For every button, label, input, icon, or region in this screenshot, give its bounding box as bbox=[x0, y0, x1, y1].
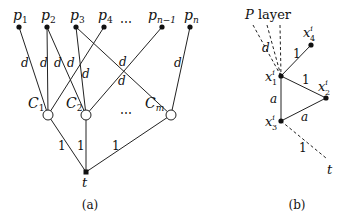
node-c2 bbox=[81, 110, 91, 120]
weight-d: d bbox=[54, 56, 62, 70]
weight-d: d bbox=[40, 56, 48, 70]
weight-d: d bbox=[82, 67, 90, 81]
panel-a-one-labels: 1 1 1 bbox=[58, 139, 120, 153]
panel-a-c-nodes: C1 C2 Cm ⋯ bbox=[28, 95, 176, 120]
label-cm: Cm bbox=[145, 95, 164, 113]
caption-a: (a) bbox=[82, 198, 99, 212]
weight-d: d bbox=[174, 56, 182, 70]
label-x1: xi1 bbox=[265, 68, 277, 87]
label-pn-1: pn−1 bbox=[148, 7, 176, 25]
panel-b-labels: P layer d xi4 xi1 xi2 xi3 1 1 a a 1 t bbox=[244, 7, 333, 177]
node-p4 bbox=[101, 24, 106, 29]
label-p-layer: P layer bbox=[244, 7, 292, 22]
figure-canvas: p1 p2 p3 p4 pn−1 pn ⋯ d d d d d d d d C1… bbox=[0, 0, 340, 221]
edge-cm-t bbox=[86, 115, 171, 172]
label-p2: p2 bbox=[41, 7, 56, 25]
label-p3: p3 bbox=[70, 7, 85, 25]
weight-d: d bbox=[67, 56, 75, 70]
label-c2: C2 bbox=[66, 95, 82, 113]
node-c1 bbox=[43, 110, 53, 120]
node-cm bbox=[166, 110, 176, 120]
dashed-edge-p-layer bbox=[280, 25, 281, 76]
weight-x3-x2: a bbox=[301, 110, 308, 124]
node-x4 bbox=[308, 42, 313, 47]
weight-1: 1 bbox=[58, 139, 66, 153]
weight-1: 1 bbox=[77, 139, 85, 153]
edge-pn-cm bbox=[171, 27, 190, 115]
label-x3: xi3 bbox=[265, 113, 277, 132]
node-p1 bbox=[16, 24, 21, 29]
node-t bbox=[84, 170, 89, 175]
label-x2: xi2 bbox=[318, 78, 330, 97]
p-ellipsis: ⋯ bbox=[120, 15, 132, 29]
panel-a-d-labels: d d d d d d d d bbox=[21, 55, 182, 88]
node-x3 bbox=[278, 118, 283, 123]
label-x4: xi4 bbox=[303, 24, 315, 43]
label-p1: p1 bbox=[13, 7, 28, 25]
label-p4: p4 bbox=[98, 7, 113, 25]
label-t-b: t bbox=[327, 162, 333, 177]
node-p3 bbox=[73, 24, 78, 29]
weight-d: d bbox=[119, 55, 127, 69]
panel-a-edges bbox=[19, 27, 190, 172]
label-t: t bbox=[82, 175, 88, 190]
edge-p2-c1 bbox=[47, 27, 48, 115]
node-x1 bbox=[278, 73, 283, 78]
node-p2 bbox=[44, 24, 49, 29]
weight-x3-t: 1 bbox=[299, 141, 307, 155]
caption-b: (b) bbox=[288, 198, 305, 212]
node-pn-1 bbox=[159, 24, 164, 29]
weight-d: d bbox=[21, 56, 29, 70]
weight-x1-x3: a bbox=[270, 92, 277, 106]
weight-1: 1 bbox=[112, 139, 120, 153]
weight-d: d bbox=[118, 74, 126, 88]
weight-d: d bbox=[262, 41, 270, 55]
weight-x1-x4: 1 bbox=[293, 47, 301, 61]
c-ellipsis: ⋯ bbox=[120, 106, 132, 120]
node-pn bbox=[187, 24, 192, 29]
label-pn: pn bbox=[184, 7, 199, 25]
panel-a-p-nodes bbox=[16, 24, 192, 29]
weight-x1-x2: 1 bbox=[302, 73, 310, 87]
